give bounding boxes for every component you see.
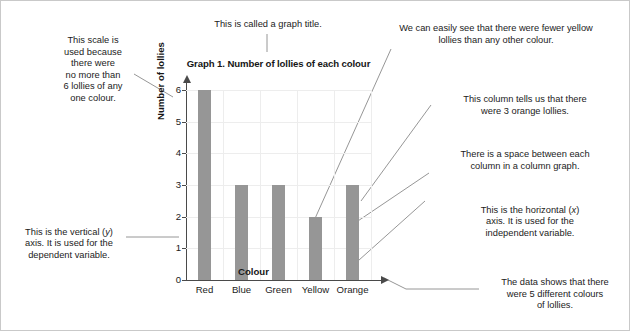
y-tick-label: 6: [161, 84, 181, 95]
grid-line-vertical: [371, 90, 372, 280]
annotation-five-colours: The data shows that there were 5 differe…: [483, 277, 627, 312]
grid-line: [186, 90, 371, 91]
y-tick-label: 2: [161, 211, 181, 222]
x-axis-label: Colour: [161, 266, 346, 277]
y-axis-line: [186, 80, 187, 280]
bar-orange: [346, 185, 359, 280]
column-chart: Graph 1. Number of lollies of each colou…: [161, 58, 396, 298]
y-tick-label: 5: [161, 116, 181, 127]
x-tick-label-blue: Blue: [222, 284, 262, 295]
grid-line: [186, 153, 371, 154]
annotation-y-axis: This is the vertical (y) axis. It is use…: [9, 215, 129, 261]
annotation-graph-title: This is called a graph title.: [193, 19, 343, 31]
x-axis-arrow: [381, 276, 389, 284]
annotation-yellow-fewest: We can easily see that there were fewer …: [367, 23, 625, 46]
bar-red: [198, 90, 211, 280]
y-tick-label: 3: [161, 179, 181, 190]
annotation-column-spacing: There is a space between each column in …: [425, 149, 625, 172]
grid-line-vertical: [260, 90, 261, 280]
annotation-orange-column: This column tells us that there were 3 o…: [425, 94, 625, 117]
annotation-y-axis-pre: This is the vertical (: [25, 227, 105, 237]
annotation-x-axis-pre: This is the horizontal (: [481, 205, 572, 215]
grid-line-vertical: [297, 90, 298, 280]
y-tick-label: 1: [161, 242, 181, 253]
x-tick-label-yellow: Yellow: [296, 284, 336, 295]
x-tick-label-red: Red: [185, 284, 225, 295]
x-tick-label-orange: Orange: [333, 284, 373, 295]
y-tick-label: 4: [161, 147, 181, 158]
figure-canvas: This scale is used because there were no…: [0, 0, 630, 331]
annotation-x-axis: This is the horizontal (x) axis. It is u…: [435, 193, 625, 239]
x-tick-label-green: Green: [259, 284, 299, 295]
chart-title: Graph 1. Number of lollies of each colou…: [161, 58, 396, 69]
y-axis-label: Number of lollies: [155, 42, 166, 120]
grid-line-vertical: [334, 90, 335, 280]
y-tick-mark: [182, 280, 186, 281]
y-tick-mark: [182, 90, 186, 91]
y-tick-mark: [182, 185, 186, 186]
y-axis-arrow: [183, 75, 191, 83]
y-tick-mark: [182, 217, 186, 218]
x-axis-line: [186, 280, 382, 281]
y-tick-mark: [182, 248, 186, 249]
annotation-scale: This scale is used because there were no…: [45, 35, 141, 105]
y-tick-mark: [182, 122, 186, 123]
y-tick-mark: [182, 153, 186, 154]
grid-line: [186, 122, 371, 123]
grid-line-vertical: [223, 90, 224, 280]
plot-area: 0123456RedBlueGreenYellowOrange: [186, 90, 371, 280]
